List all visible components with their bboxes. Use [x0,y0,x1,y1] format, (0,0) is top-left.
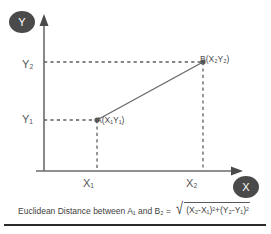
point-b-label: B(X₂Y₂) [200,54,229,64]
x-axis [36,167,243,176]
y-axis-badge: Y [9,11,35,33]
point-a-label: A(X₁Y₁) [96,115,124,125]
radical-sign-icon: √ [176,202,183,216]
formula-lead-text: Euclidean Distance between A₁ and B₂ = [18,202,171,216]
radicand-expression: (X₂-X₁)²+(Y₂-Y₁)² [184,202,250,216]
x-tick-label-x2: X₂ [186,177,198,189]
y-axis-badge-label: Y [18,16,25,28]
y-tick-label-y2: Y₂ [22,58,34,70]
square-root-expression: √ (X₂-X₁)²+(Y₂-Y₁)² [176,202,250,216]
y-axis [40,14,49,171]
distance-formula-caption: Euclidean Distance between A₁ and B₂ = √… [18,202,258,216]
y-tick-label-y1: Y₁ [22,113,33,125]
segment-ab [97,62,203,120]
bottom-divider [4,224,266,226]
x-tick-label-x1: X₁ [83,177,94,189]
x-axis-badge: X [233,176,259,198]
euclidean-distance-diagram: Y X Y₂ Y₁ X₁ X₂ A(X₁Y₁) B(X₂Y₂) Euclidea… [0,0,271,234]
x-axis-badge-label: X [242,181,249,193]
coordinate-plot [0,0,271,234]
